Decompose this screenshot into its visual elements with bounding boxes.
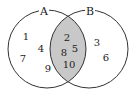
element: 3 <box>94 37 100 48</box>
element: 6 <box>103 52 109 63</box>
element: 10 <box>63 59 76 70</box>
venn-diagram: A B 1 4 7 9 2 5 8 10 3 6 <box>0 0 136 91</box>
set-b-label: B <box>86 5 94 18</box>
element: 1 <box>23 31 29 42</box>
element: 8 <box>61 47 67 58</box>
element: 2 <box>64 32 70 43</box>
element: 5 <box>72 43 78 54</box>
set-a-label: A <box>39 5 49 18</box>
element: 9 <box>45 63 51 74</box>
element: 7 <box>20 53 26 64</box>
element: 4 <box>38 43 44 54</box>
